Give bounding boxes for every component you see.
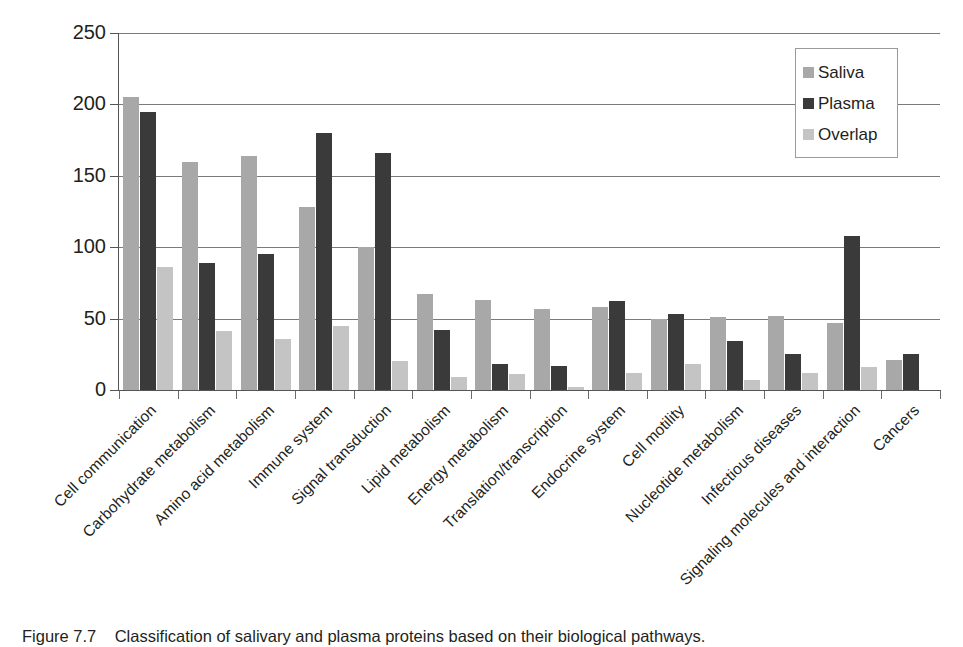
bar-saliva xyxy=(241,156,257,390)
bar-plasma xyxy=(668,314,684,390)
bar-saliva xyxy=(827,323,843,390)
y-tick-mark xyxy=(110,33,119,34)
bar-overlap xyxy=(626,373,642,390)
legend-label-plasma: Plasma xyxy=(818,95,875,112)
figure-number: Figure 7.7 xyxy=(22,627,96,645)
bar-overlap xyxy=(275,339,291,390)
y-tick-mark xyxy=(110,319,119,320)
chart-legend: Saliva Plasma Overlap xyxy=(795,48,898,158)
bar-saliva xyxy=(592,307,608,390)
bar-plasma xyxy=(375,153,391,390)
bar-overlap xyxy=(157,267,173,390)
bar-overlap xyxy=(568,387,584,390)
bar-group xyxy=(236,33,295,390)
legend-label-overlap: Overlap xyxy=(818,126,878,143)
bar-saliva xyxy=(358,247,374,390)
bar-saliva xyxy=(710,317,726,390)
y-tick-mark xyxy=(110,247,119,248)
y-tick-label: 50 xyxy=(40,307,106,330)
legend-swatch-saliva xyxy=(803,67,814,78)
bar-plasma xyxy=(316,133,332,390)
x-axis-label: Endocrine system xyxy=(405,402,628,625)
legend-swatch-overlap xyxy=(803,129,814,140)
legend-label-saliva: Saliva xyxy=(818,64,864,81)
bar-plasma xyxy=(727,341,743,390)
x-axis-label: Immune system xyxy=(112,402,335,625)
bar-group xyxy=(705,33,764,390)
bar-overlap xyxy=(509,374,525,390)
legend-item-overlap: Overlap xyxy=(803,119,897,150)
bar-plasma xyxy=(844,236,860,390)
y-tick-mark xyxy=(110,176,119,177)
bar-overlap xyxy=(392,361,408,390)
bar-plasma xyxy=(609,301,625,390)
bar-overlap xyxy=(802,373,818,390)
bar-overlap xyxy=(861,367,877,390)
x-axis-label: Amino acid metabolism xyxy=(53,402,276,625)
x-axis-label: Translation/transcription xyxy=(347,402,570,625)
bar-overlap xyxy=(744,380,760,390)
bar-saliva xyxy=(299,207,315,390)
y-tick-label: 200 xyxy=(40,92,106,115)
bar-plasma xyxy=(140,112,156,390)
figure-caption: Figure 7.7 Classification of salivary an… xyxy=(22,627,952,646)
bar-saliva xyxy=(534,309,550,390)
bar-group xyxy=(119,33,178,390)
y-tick-label: 100 xyxy=(40,235,106,258)
bar-plasma xyxy=(785,354,801,390)
x-axis-label: Signal transduction xyxy=(171,402,394,625)
bar-saliva xyxy=(768,316,784,390)
y-tick-mark xyxy=(110,104,119,105)
bar-plasma xyxy=(258,254,274,390)
x-axis-label: Cell motility xyxy=(464,402,687,625)
bar-group xyxy=(530,33,589,390)
bar-plasma xyxy=(551,366,567,390)
bar-plasma xyxy=(199,263,215,390)
bar-saliva xyxy=(182,162,198,390)
bar-group xyxy=(471,33,530,390)
x-axis-label: Signaling molecules and interaction xyxy=(640,402,863,625)
y-tick-label: 250 xyxy=(40,21,106,44)
bar-group xyxy=(647,33,706,390)
bar-saliva xyxy=(886,360,902,390)
legend-item-saliva: Saliva xyxy=(803,57,897,88)
bar-overlap xyxy=(333,326,349,390)
figure-container: 050100150200250 Saliva Plasma Overlap Ce… xyxy=(0,0,963,647)
bar-overlap xyxy=(216,331,232,390)
legend-swatch-plasma xyxy=(803,98,814,109)
y-tick-mark xyxy=(110,390,119,391)
bar-saliva xyxy=(417,294,433,390)
bar-plasma xyxy=(492,364,508,390)
bar-group xyxy=(354,33,413,390)
bar-overlap xyxy=(685,364,701,390)
x-axis-label: Nucleotide metabolism xyxy=(523,402,746,625)
x-axis-labels: Cell communicationCarbohydrate metabolis… xyxy=(0,396,963,611)
bar-plasma xyxy=(903,354,919,390)
bar-group xyxy=(295,33,354,390)
bar-saliva xyxy=(651,319,667,390)
x-axis-label: Infectious diseases xyxy=(581,402,804,625)
bar-saliva xyxy=(475,300,491,390)
x-axis-label: Cancers xyxy=(699,402,922,625)
legend-item-plasma: Plasma xyxy=(803,88,897,119)
x-axis-label: Lipid metabolism xyxy=(229,402,452,625)
y-tick-label: 150 xyxy=(40,164,106,187)
x-axis-label: Carbohydrate metabolism xyxy=(0,402,218,625)
x-axis-label: Energy metabolism xyxy=(288,402,511,625)
bar-overlap xyxy=(451,377,467,390)
figure-caption-text: Classification of salivary and plasma pr… xyxy=(115,627,706,645)
bar-group xyxy=(178,33,237,390)
bar-group xyxy=(412,33,471,390)
bar-plasma xyxy=(434,330,450,390)
bar-group xyxy=(588,33,647,390)
bar-saliva xyxy=(123,97,139,390)
